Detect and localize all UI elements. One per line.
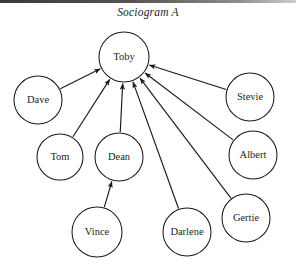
node-label-tom: Tom <box>50 151 69 162</box>
edge-dave-to-toby <box>60 69 100 89</box>
node-tom[interactable]: Tom <box>37 134 83 180</box>
sociogram-figure: Sociogram A TobyDaveStevieTomDeanAlbertG… <box>0 0 296 266</box>
node-dave[interactable]: Dave <box>14 76 62 124</box>
edges-layer <box>60 65 233 208</box>
edge-albert-to-toby <box>145 73 233 140</box>
edge-dean-to-toby <box>120 83 122 132</box>
edge-stevie-to-toby <box>149 65 226 89</box>
node-toby[interactable]: Toby <box>99 32 149 82</box>
node-label-dave: Dave <box>27 94 49 105</box>
edge-tom-to-toby <box>73 79 110 136</box>
node-label-dean: Dean <box>108 151 131 162</box>
node-label-darlene: Darlene <box>170 226 204 237</box>
node-label-albert: Albert <box>240 149 267 160</box>
node-gertie[interactable]: Gertie <box>222 194 270 242</box>
node-dean[interactable]: Dean <box>95 133 143 181</box>
node-darlene[interactable]: Darlene <box>163 208 211 256</box>
node-label-gertie: Gertie <box>233 212 260 223</box>
node-vince[interactable]: Vince <box>72 207 122 257</box>
node-label-stevie: Stevie <box>237 91 264 102</box>
sociogram-canvas: TobyDaveStevieTomDeanAlbertGertieDarlene… <box>0 0 296 266</box>
node-stevie[interactable]: Stevie <box>226 73 274 121</box>
node-label-toby: Toby <box>113 51 135 62</box>
node-label-vince: Vince <box>85 226 110 237</box>
nodes-layer: TobyDaveStevieTomDeanAlbertGertieDarlene… <box>14 32 277 257</box>
edge-vince-to-dean <box>104 181 112 207</box>
node-albert[interactable]: Albert <box>229 131 277 179</box>
